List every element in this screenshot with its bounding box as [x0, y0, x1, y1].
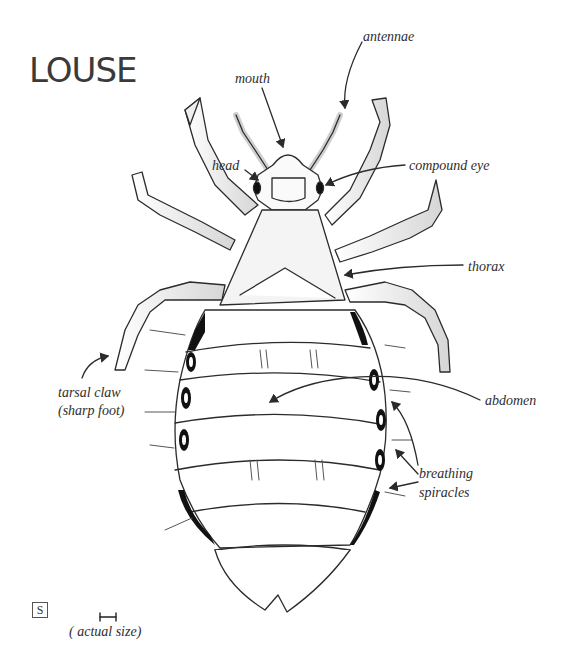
leader-spiracle-1 [392, 402, 418, 465]
antenna-right [310, 115, 340, 170]
leader-spiracle-3 [390, 482, 418, 488]
louse-illustration [0, 0, 574, 671]
tail-segment [215, 550, 350, 612]
leader-mouth [262, 88, 283, 147]
label-spiracles: spiracles [419, 484, 470, 501]
label-tarsal-claw: tarsal claw [58, 384, 121, 401]
actual-size-bar [100, 613, 116, 621]
label-abdomen: abdomen [485, 392, 536, 409]
corner-mark-s: S [32, 602, 48, 618]
label-antennae: antennae [363, 28, 414, 45]
louse-diagram: LOUSE [0, 0, 574, 671]
label-head: head [212, 157, 239, 174]
leader-tarsal-claw [82, 356, 108, 378]
leg-right-front [325, 98, 390, 225]
eye-left [254, 182, 261, 194]
label-sharp-foot: (sharp foot) [58, 402, 125, 419]
label-mouth: mouth [235, 70, 270, 87]
label-compound-eye: compound eye [409, 157, 489, 174]
leader-spiracle-2 [396, 450, 418, 474]
label-actual-size: ( actual size) [69, 623, 141, 640]
leader-head [245, 170, 258, 180]
leader-thorax [345, 265, 463, 275]
eye-right [317, 182, 324, 194]
label-breathing: breathing [419, 465, 473, 482]
leader-antennae [345, 42, 362, 108]
label-thorax: thorax [468, 258, 505, 275]
